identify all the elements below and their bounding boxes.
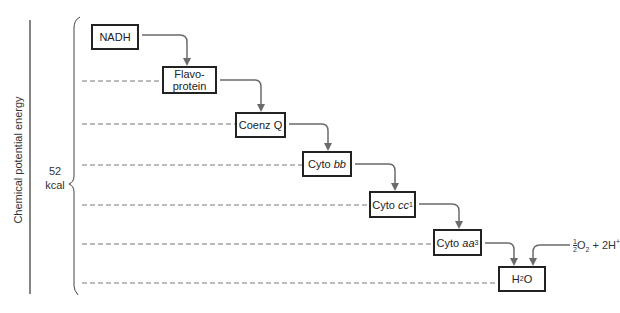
box-coenzq: Coenz Q [235, 112, 286, 138]
box-cytocc1: Cyto cc1 [369, 191, 416, 218]
box-cytoaa3-sub: 3 [475, 237, 479, 249]
box-flavoprotein-line2: protein [173, 80, 207, 92]
box-flavoprotein: Flavo- protein [162, 66, 217, 94]
box-coenzq-label: Coenz Q [239, 119, 282, 131]
axis-label: Chemical potential energy [12, 96, 24, 223]
box-cytoaa3-italic: aa [462, 237, 474, 249]
box-cytocc1-sub: 1 [409, 199, 413, 211]
energy-brace [69, 17, 80, 295]
box-h2o-suffix: O [524, 273, 533, 285]
box-cytocc1-prefix: Cyto [372, 199, 398, 211]
box-cytobb-prefix: Cyto [308, 158, 334, 170]
oxygen-input-label: 12O2 + 2H+ [573, 238, 620, 253]
energy-value: 52 [42, 164, 68, 178]
box-cytoaa3-prefix: Cyto [437, 237, 463, 249]
box-cytobb: Cyto bb [302, 151, 352, 177]
arrow-heads [183, 58, 537, 266]
box-h2o-prefix: H [512, 273, 520, 285]
box-cytocc1-italic: cc [398, 199, 409, 211]
box-nadh: NADH [91, 24, 139, 50]
box-h2o: H2O [498, 266, 546, 292]
box-cytobb-italic: bb [334, 158, 346, 170]
box-cytoaa3: Cyto aa3 [433, 229, 482, 256]
energy-span-label: 52 kcal [42, 164, 68, 192]
box-flavoprotein-line1: Flavo- [174, 68, 205, 80]
energy-unit: kcal [42, 178, 68, 192]
box-nadh-label: NADH [99, 31, 130, 43]
